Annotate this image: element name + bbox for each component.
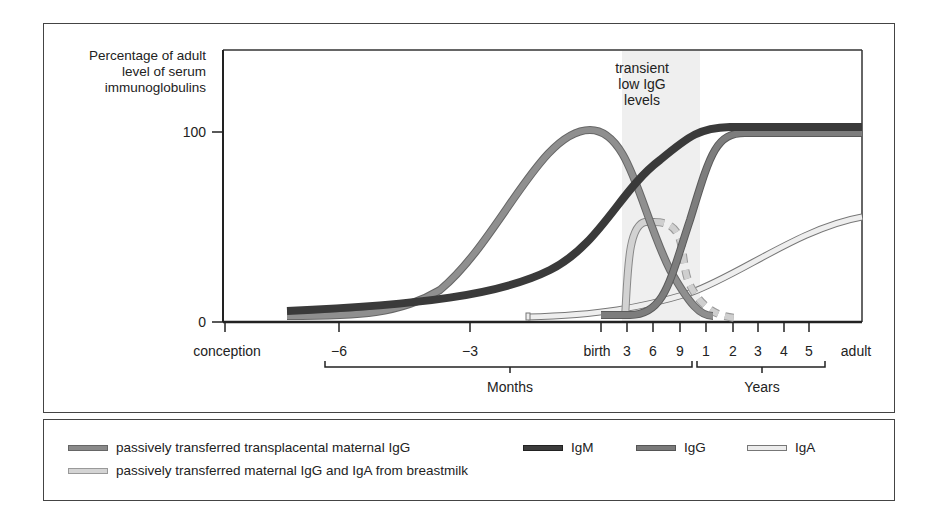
legend-label: passively transferred transplacental mat… [116,440,410,455]
legend-panel [43,419,895,501]
x-tick-label-adult: adult [841,343,871,359]
x-tick-label-3m: 3 [623,343,631,359]
legend-label: IgM [571,440,594,455]
x-tick-label-6m: 6 [649,343,657,359]
x-tick-label-2y: 2 [729,343,737,359]
months-bracket [325,361,692,373]
years-label: Years [744,379,779,395]
legend-item-igm: IgM [523,440,594,455]
annotation-line: levels [602,92,682,108]
legend-label: IgG [684,440,706,455]
y-tick-label-0: 0 [198,314,206,330]
legend-swatch-maternal-igg [68,445,108,451]
igm-curve [287,127,862,311]
x-tick-label-conception: conception [193,343,261,359]
transient-low-igg-annotation: transient low IgG levels [602,60,682,108]
legend-swatch-breastmilk [68,468,108,474]
legend-swatch-igm [523,445,563,451]
x-tick-label-3y: 3 [754,343,762,359]
years-bracket [697,361,825,373]
legend-label: IgA [795,440,815,455]
annotation-line: transient [602,60,682,76]
x-tick-label-birth: birth [583,343,610,359]
legend-item-igg: IgG [636,440,706,455]
x-tick-label-1y: 1 [702,343,710,359]
legend-swatch-iga [747,445,787,451]
x-ticks [225,322,809,332]
months-label: Months [487,379,533,395]
legend-swatch-igg [636,445,676,451]
x-tick-label-5y: 5 [805,343,813,359]
x-tick-label-9m: 9 [676,343,684,359]
x-tick-label-minus6: −6 [331,343,347,359]
legend-label: passively transferred maternal IgG and I… [116,463,468,478]
legend-item-breastmilk: passively transferred maternal IgG and I… [68,463,468,478]
x-tick-label-4y: 4 [780,343,788,359]
y-tick-label-100: 100 [183,124,207,140]
legend-item-iga: IgA [747,440,815,455]
annotation-line: low IgG [602,76,682,92]
legend-item-maternal-igg: passively transferred transplacental mat… [68,440,410,455]
x-tick-label-minus3: −3 [462,343,478,359]
